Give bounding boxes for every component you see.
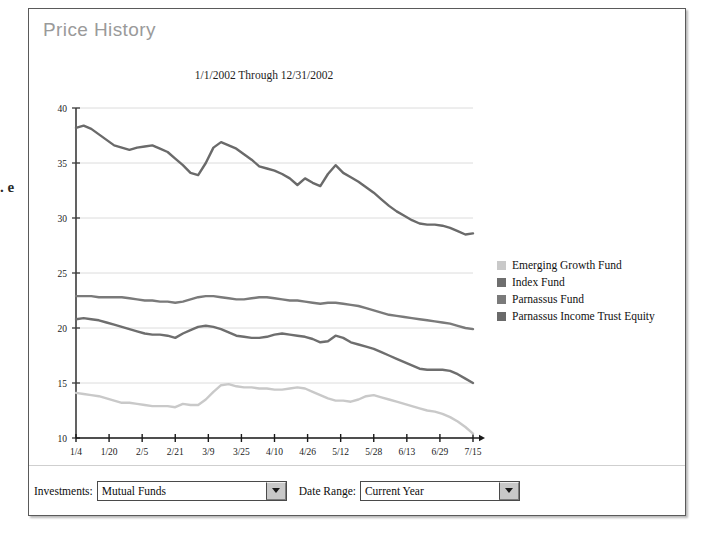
x-tick-label: 7/15 xyxy=(465,447,482,457)
x-tick-label: 4/26 xyxy=(299,447,316,457)
date-range-dropdown[interactable]: Current Year xyxy=(360,481,520,501)
x-tick-label: 6/13 xyxy=(398,447,415,457)
legend-item: Parnassus Fund xyxy=(497,291,655,307)
x-tick-label: 2/5 xyxy=(136,447,148,457)
price-history-panel: Price History 1/1/2002 Through 12/31/200… xyxy=(28,8,686,516)
legend-item: Emerging Growth Fund xyxy=(497,257,655,273)
chevron-down-icon xyxy=(505,488,513,493)
x-tick-label: 6/29 xyxy=(431,447,448,457)
legend-swatch xyxy=(497,261,506,270)
chart-area: 1/1/2002 Through 12/31/2002 101520253035… xyxy=(29,53,685,465)
legend-label: Parnassus Fund xyxy=(512,293,584,305)
x-axis: 1/41/202/52/213/93/254/104/265/125/286/1… xyxy=(70,434,485,457)
y-tick-label: 40 xyxy=(58,104,68,114)
date-range-label: Date Range: xyxy=(299,485,356,497)
y-tick-label: 30 xyxy=(58,214,68,224)
x-tick-label: 5/12 xyxy=(332,447,349,457)
x-axis-arrow-icon xyxy=(479,435,485,441)
scan-margin-artifact: . e e s . f l . xyxy=(0,175,16,520)
chevron-down-icon xyxy=(272,488,280,493)
y-tick-label: 35 xyxy=(58,159,68,169)
x-tick-label: 3/9 xyxy=(202,447,214,457)
x-tick-label: 4/10 xyxy=(266,447,283,457)
x-tick-label: 1/20 xyxy=(101,447,118,457)
investments-dropdown-button[interactable] xyxy=(266,482,286,500)
x-tick-label: 2/21 xyxy=(167,447,184,457)
x-tick-label: 3/25 xyxy=(233,447,250,457)
legend-label: Parnassus Income Trust Equity xyxy=(512,310,655,322)
date-range-dropdown-button[interactable] xyxy=(499,482,519,500)
legend-label: Index Fund xyxy=(512,276,565,288)
page-title: Price History xyxy=(43,19,156,41)
series-line xyxy=(76,296,473,329)
investments-label: Investments: xyxy=(34,485,93,497)
x-tick-label: 5/28 xyxy=(365,447,382,457)
legend-item: Index Fund xyxy=(497,274,655,290)
chart-legend: Emerging Growth FundIndex FundParnassus … xyxy=(497,257,655,325)
legend-swatch xyxy=(497,295,506,304)
filter-toolbar: Investments: Mutual Funds Date Range: Cu… xyxy=(29,465,685,515)
legend-item: Parnassus Income Trust Equity xyxy=(497,308,655,324)
y-tick-label: 25 xyxy=(58,269,68,279)
date-range-dropdown-value: Current Year xyxy=(361,482,499,500)
investments-dropdown[interactable]: Mutual Funds xyxy=(97,481,287,501)
investments-dropdown-value: Mutual Funds xyxy=(98,482,266,500)
legend-swatch xyxy=(497,312,506,321)
y-tick-label: 20 xyxy=(58,324,68,334)
y-tick-label: 10 xyxy=(58,434,68,444)
legend-label: Emerging Growth Fund xyxy=(512,259,622,271)
legend-swatch xyxy=(497,278,506,287)
series-lines xyxy=(76,126,473,434)
series-line xyxy=(76,384,473,434)
y-tick-label: 15 xyxy=(58,379,68,389)
x-tick-label: 1/4 xyxy=(70,447,82,457)
